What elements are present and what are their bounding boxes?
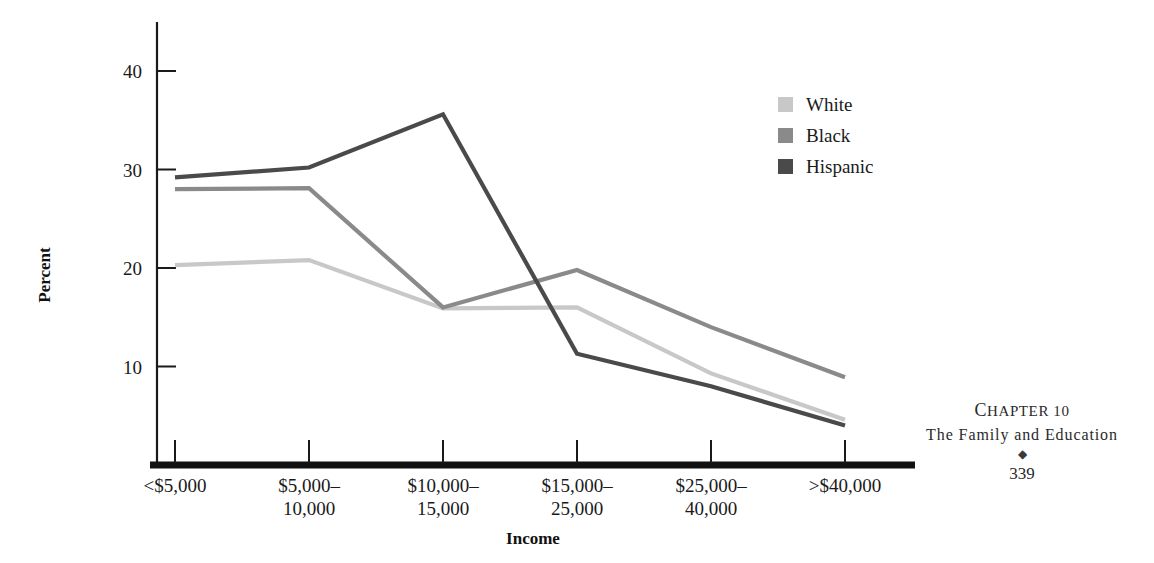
- figure-container: 10203040 <$5,000$5,000–10,000$10,000–15,…: [0, 0, 1154, 563]
- y-axis-tick-labels: 10203040: [123, 61, 142, 378]
- footer-chapter-word-rest: HAPTER: [987, 403, 1049, 419]
- footer-chapter-word-c: C: [974, 400, 987, 420]
- footer-chapter-title: The Family and Education: [916, 424, 1128, 446]
- y-tick-label-10: 10: [123, 357, 142, 378]
- footer-chapter-label: CHAPTER 10: [916, 398, 1128, 423]
- x-category-label-4-line0: $25,000–: [675, 475, 747, 496]
- legend-label-white: White: [806, 94, 852, 115]
- legend-swatch-black: [778, 128, 793, 143]
- x-category-label-2-line1: 15,000: [417, 498, 469, 519]
- diamond-ornament-icon: ◆: [916, 448, 1128, 461]
- y-tick-label-30: 30: [123, 160, 142, 181]
- x-axis-ticks: [175, 440, 845, 463]
- series-line-black: [175, 188, 845, 377]
- x-category-label-2-line0: $10,000–: [407, 475, 479, 496]
- y-axis-title: Percent: [35, 247, 54, 303]
- x-category-label-4-line1: 40,000: [685, 498, 737, 519]
- x-axis-title: Income: [506, 529, 560, 548]
- series-layer: [175, 114, 845, 425]
- footer-page-number: 339: [916, 462, 1128, 485]
- footer-chapter-number: 10: [1053, 403, 1069, 419]
- chart-legend: WhiteBlackHispanic: [778, 94, 874, 177]
- legend-label-hispanic: Hispanic: [806, 156, 874, 177]
- x-category-label-0: <$5,000: [144, 475, 207, 496]
- page-running-foot: CHAPTER 10 The Family and Education ◆ 33…: [916, 398, 1128, 486]
- y-tick-label-20: 20: [123, 258, 142, 279]
- legend-label-black: Black: [806, 125, 851, 146]
- y-tick-label-40: 40: [123, 61, 142, 82]
- x-category-label-3-line0: $15,000–: [541, 475, 613, 496]
- y-axis-ticks: [157, 71, 176, 367]
- x-category-label-1-line1: 10,000: [283, 498, 335, 519]
- legend-swatch-white: [778, 97, 793, 112]
- x-axis-category-labels: <$5,000$5,000–10,000$10,000–15,000$15,00…: [144, 475, 882, 519]
- series-line-hispanic: [175, 114, 845, 425]
- x-category-label-3-line1: 25,000: [551, 498, 603, 519]
- legend-swatch-hispanic: [778, 159, 793, 174]
- x-category-label-5: >$40,000: [809, 475, 881, 496]
- x-category-label-1-line0: $5,000–: [278, 475, 340, 496]
